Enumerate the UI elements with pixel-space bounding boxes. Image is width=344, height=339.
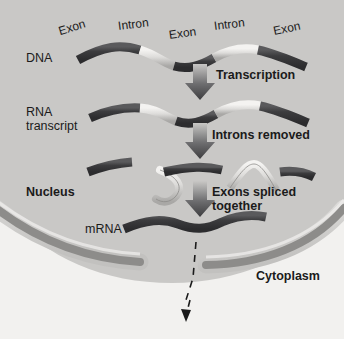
step-label-exons-spliced-line1: Exons spliced bbox=[212, 185, 296, 199]
row-label-rna-transcript-line2: transcript bbox=[26, 119, 77, 133]
step-label-introns-removed: Introns removed bbox=[212, 128, 310, 142]
region-label-nucleus: Nucleus bbox=[26, 185, 75, 199]
row-label-rna-transcript-line1: RNA bbox=[26, 105, 52, 119]
step-label-exons-spliced-line2: together bbox=[212, 199, 262, 213]
row-label-mrna: mRNA bbox=[85, 222, 122, 236]
step-label-transcription: Transcription bbox=[216, 68, 295, 82]
row-label-dna: DNA bbox=[26, 51, 52, 65]
region-label-cytoplasm: Cytoplasm bbox=[256, 269, 320, 283]
diagram-canvas: Exon Intron Exon Intron Exon DNA RNA tra… bbox=[0, 0, 344, 339]
